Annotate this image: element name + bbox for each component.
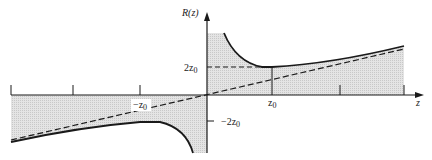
label-neg-2z0: −2z0 [221, 116, 240, 129]
label-z0: z0 [268, 97, 276, 110]
y-axis-arrow-icon [204, 12, 210, 21]
shaded-region-negative [11, 95, 207, 153]
resistance-plot: R(z) z 2z0 −2z0 z0 −z0 [0, 0, 432, 160]
y-axis-label: R(z) [181, 7, 199, 19]
label-2z0: 2z0 [184, 62, 197, 75]
x-axis-label: z [415, 97, 420, 108]
